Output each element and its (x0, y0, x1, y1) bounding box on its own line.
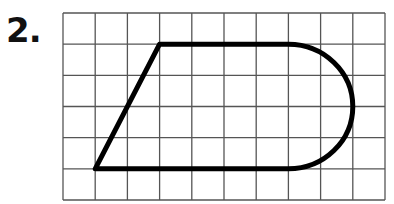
grid-lines (63, 13, 385, 200)
grid-figure (0, 0, 394, 204)
